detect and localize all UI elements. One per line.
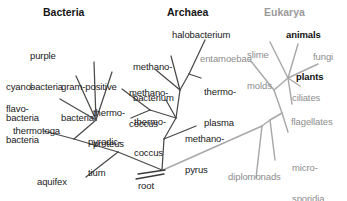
taxon-flavobacteria-line2: bacteria bbox=[6, 135, 39, 145]
taxon-pyrodictium: pyrodic- tium bbox=[88, 117, 121, 199]
branch-thermoplasma bbox=[189, 74, 201, 78]
taxon-methanopyrus-line2: pyrus bbox=[185, 165, 224, 175]
branch-microsporidia bbox=[270, 120, 275, 160]
taxon-thermococcus: thermo- coccus bbox=[134, 97, 166, 179]
taxon-halobacterium: halobacterium bbox=[172, 30, 230, 40]
branch-archaea-upper-stem bbox=[176, 90, 180, 118]
taxon-slime-molds-line1: slime bbox=[247, 50, 272, 60]
taxon-purple-bacteria-line1: purple bbox=[30, 51, 63, 61]
taxon-microsporidia-line1: micro- bbox=[292, 163, 324, 173]
taxon-aquifex: aquifex bbox=[37, 177, 67, 187]
taxon-flagellates: flagellates bbox=[291, 117, 333, 127]
taxon-slime-molds-line2: molds bbox=[247, 81, 272, 91]
taxon-flavobacteria-line1: flavo- bbox=[6, 104, 39, 114]
taxon-microsporidia-line2: sporidia bbox=[292, 194, 324, 201]
taxon-thermococcus-line2: coccus bbox=[134, 148, 166, 158]
taxon-animals: animals bbox=[286, 30, 321, 40]
taxon-methanopyrus: methano- pyrus bbox=[185, 114, 224, 196]
taxon-fungi: fungi bbox=[313, 52, 333, 62]
branch-flagellates bbox=[282, 113, 288, 132]
phylogenetic-tree-figure: Bacteria Archaea Eukarya purple bacteria… bbox=[0, 0, 347, 201]
branch-eukarya-crown-stem bbox=[274, 90, 282, 113]
taxon-microsporidia: micro- sporidia bbox=[292, 143, 324, 201]
header-archaea: Archaea bbox=[167, 7, 208, 18]
branch-eukarya-stem-a bbox=[262, 120, 270, 126]
header-eukarya: Eukarya bbox=[264, 7, 305, 18]
branch-slime-molds bbox=[270, 42, 288, 78]
taxon-diplomonads: diplomonads bbox=[228, 172, 281, 182]
taxon-methanopyrus-line1: methano- bbox=[185, 134, 224, 144]
root-label: root bbox=[138, 181, 154, 191]
taxon-thermoplasma-line1: thermo- bbox=[204, 87, 236, 97]
taxon-thermotoga: thermotoga bbox=[13, 126, 60, 136]
taxon-thermococcus-line1: thermo- bbox=[134, 117, 166, 127]
taxon-pyrodictium-line2: tium bbox=[88, 168, 121, 178]
header-bacteria: Bacteria bbox=[43, 7, 84, 18]
taxon-plants: plants bbox=[296, 72, 323, 82]
taxon-pyrodictium-line1: pyrodic- bbox=[88, 137, 121, 147]
taxon-slime-molds: slime molds bbox=[247, 30, 272, 112]
branch-halo-thermoplasma-stem bbox=[180, 74, 189, 90]
taxon-entamoebae: entamoebae bbox=[200, 54, 252, 64]
taxon-ciliates: ciliates bbox=[292, 93, 320, 103]
branch-eukarya-stem-b bbox=[270, 113, 282, 120]
branch-crown-stem bbox=[274, 78, 288, 90]
